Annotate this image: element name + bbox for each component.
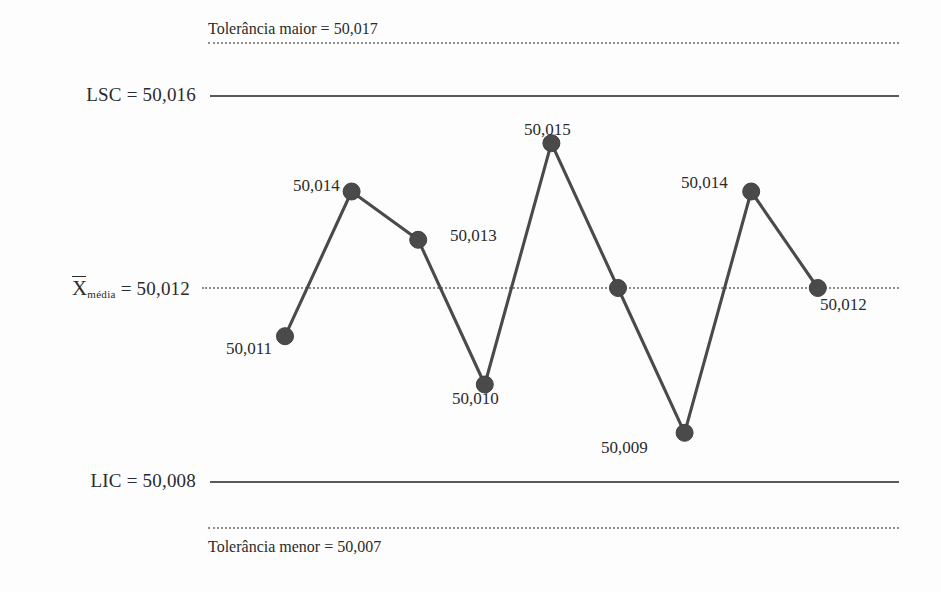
data-point-marker[interactable] [277, 328, 294, 345]
point-label-2: 50,014 [293, 176, 340, 196]
data-point-marker[interactable] [809, 280, 826, 297]
point-label-6: 50,012 [820, 295, 867, 315]
data-point-marker[interactable] [410, 231, 427, 248]
point-label-4: 50,010 [452, 389, 499, 409]
data-point-marker[interactable] [743, 183, 760, 200]
point-label-3: 50,013 [450, 226, 497, 246]
point-label-5: 50,015 [524, 120, 571, 140]
series-plot [0, 0, 941, 592]
series-group [277, 135, 827, 442]
series-line [285, 143, 818, 433]
data-point-marker[interactable] [610, 280, 627, 297]
point-label-8: 50,014 [681, 173, 728, 193]
control-chart: Tolerância maior = 50,017 Tolerância men… [0, 0, 941, 592]
data-point-marker[interactable] [676, 424, 693, 441]
point-label-7: 50,009 [601, 438, 648, 458]
data-point-marker[interactable] [343, 183, 360, 200]
point-label-1: 50,011 [226, 339, 272, 359]
